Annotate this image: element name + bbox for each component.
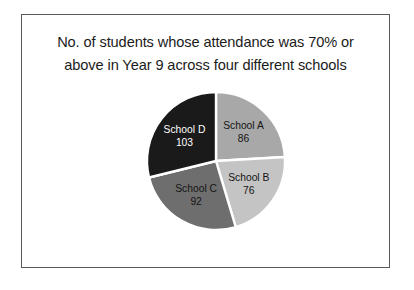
pie-chart-svg: School A86School B76School C92School D10…	[141, 86, 291, 236]
pie-slice-label-school-a: School A	[223, 120, 264, 131]
pie-slice-value-school-c: 92	[190, 196, 202, 207]
pie-slice-value-school-b: 76	[243, 185, 255, 196]
pie-chart: School A86School B76School C92School D10…	[141, 86, 291, 236]
pie-slice-label-school-d: School D	[164, 124, 206, 135]
pie-slice-label-school-c: School C	[175, 183, 217, 194]
pie-slice-label-school-b: School B	[228, 172, 269, 183]
pie-slice-value-school-d: 103	[176, 137, 193, 148]
chart-frame: No. of students whose attendance was 70%…	[21, 14, 390, 268]
chart-title: No. of students whose attendance was 70%…	[22, 31, 389, 77]
chart-title-line-1: No. of students whose attendance was 70%…	[22, 31, 389, 54]
pie-slice-value-school-a: 86	[238, 133, 250, 144]
chart-title-line-2: above in Year 9 across four different sc…	[22, 54, 389, 77]
